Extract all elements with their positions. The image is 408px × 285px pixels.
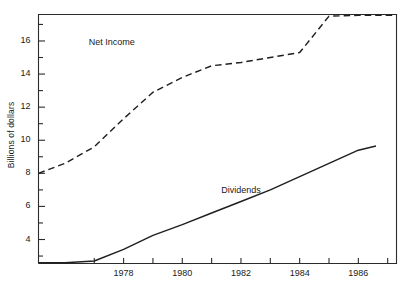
y-tick-label: 10 (9, 134, 31, 144)
x-tick-label: 1984 (280, 268, 320, 278)
chart-background (0, 0, 408, 285)
x-tick-label: 1980 (162, 268, 202, 278)
y-tick-label: 14 (9, 68, 31, 78)
y-tick-label: 12 (9, 101, 31, 111)
x-tick-label: 1986 (338, 268, 378, 278)
y-tick-label: 8 (9, 167, 31, 177)
x-tick-label: 1982 (221, 268, 261, 278)
x-tick-label: 1978 (104, 268, 144, 278)
annotation-dividends: Dividends (221, 185, 261, 195)
annotation-net-income: Net Income (89, 37, 135, 47)
y-tick-label: 4 (9, 234, 31, 244)
y-tick-label: 6 (9, 200, 31, 210)
chart-figure: Billions of dollars 46810121416 19781980… (0, 0, 408, 285)
y-tick-label: 16 (9, 35, 31, 45)
line-chart-canvas (0, 0, 408, 285)
